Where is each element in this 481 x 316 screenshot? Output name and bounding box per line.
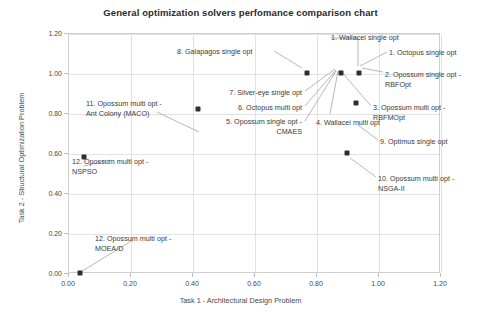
x-tick-mark — [316, 273, 317, 277]
leader-line — [350, 158, 376, 177]
ann-3-rbfmopt: 3. Opossum multi opt - RBFMOpt — [373, 103, 445, 122]
x-tick-label: 0.80 — [296, 280, 336, 287]
scatter-chart: General optimization solvers perfomance … — [0, 0, 481, 316]
data-point — [304, 71, 309, 76]
x-tick-mark — [130, 273, 131, 277]
y-tick-label: 1.00 — [36, 70, 62, 77]
y-tick-label: 0.00 — [36, 270, 62, 277]
y-tick-mark — [64, 113, 68, 114]
leader-line — [330, 71, 338, 114]
data-point — [78, 271, 83, 276]
x-tick-label: 1.00 — [358, 280, 398, 287]
data-point — [345, 151, 350, 156]
ann-5-cmaes: 5. Opossum single opt - CMAES — [226, 117, 302, 136]
ann-9-optimus: 9. Optimus single opt — [380, 137, 448, 147]
y-tick-mark — [64, 273, 68, 274]
y-tick-mark — [64, 193, 68, 194]
ann-7-silvereye: 7. Silver-eye single opt — [229, 88, 302, 98]
x-tick-mark — [192, 273, 193, 277]
ann-1-octopus: 1. Octopus single opt — [389, 48, 457, 58]
ann-2-rbfopt: 2. Opossum single opt - RBFOpt — [385, 70, 461, 89]
leader-line — [274, 51, 302, 68]
ann-6-octopus: 6. Octopus multi opt — [238, 103, 302, 113]
y-tick-mark — [64, 33, 68, 34]
x-tick-label: 0.60 — [234, 280, 274, 287]
data-point — [357, 71, 362, 76]
y-tick-label: 0.80 — [36, 110, 62, 117]
x-tick-mark — [68, 273, 69, 277]
data-point — [354, 101, 359, 106]
data-point — [196, 107, 201, 112]
y-tick-label: 0.60 — [36, 150, 62, 157]
x-tick-label: 0.00 — [48, 280, 88, 287]
x-tick-mark — [440, 273, 441, 277]
y-tick-mark — [64, 233, 68, 234]
x-tick-label: 0.40 — [172, 280, 212, 287]
y-tick-label: 0.20 — [36, 230, 62, 237]
y-tick-label: 0.40 — [36, 190, 62, 197]
y-tick-label: 1.20 — [36, 30, 62, 37]
leader-line — [157, 112, 199, 132]
y-tick-mark — [64, 153, 68, 154]
x-tick-mark — [378, 273, 379, 277]
ann-12-nspso: 12. Opossum multi opt - NSPSO — [72, 157, 148, 176]
x-tick-mark — [254, 273, 255, 277]
x-tick-label: 1.20 — [420, 280, 460, 287]
ann-1-wallacei: 1. Wallacei single opt — [331, 33, 399, 43]
data-point — [338, 71, 343, 76]
leader-line — [362, 68, 383, 72]
ann-10-nsga: 10. Opossum multi opt - NSGA-II — [378, 174, 454, 193]
ann-12-moead: 12. Opossum multi opt - MOEA/D — [95, 234, 171, 253]
leader-line — [305, 71, 336, 121]
x-tick-label: 0.20 — [110, 280, 150, 287]
leader-line — [360, 52, 387, 66]
ann-4-wallacei: 4. Wallacei multi opt — [316, 118, 380, 128]
ann-11-maco: 11. Opossum multi opt - Ant Colony (MACO… — [86, 99, 162, 118]
y-tick-mark — [64, 73, 68, 74]
ann-8-galapagos: 8. Galapagos single opt — [177, 47, 253, 57]
